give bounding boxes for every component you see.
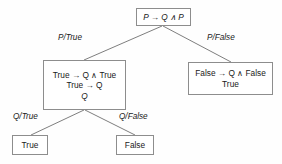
proof-tree-figure: P → Q ∧ P True → Q ∧ True True → Q Q Fal…	[0, 0, 282, 164]
edge-left-to-leaf-true-line	[31, 110, 84, 135]
node-left-line-3: Q	[81, 91, 87, 102]
node-leaf-false: False	[116, 135, 154, 155]
edge-root-to-left-line	[84, 26, 162, 60]
node-leaf-true: True	[12, 135, 48, 155]
edge-label-p-true: P/True	[58, 33, 82, 42]
node-root: P → Q ∧ P	[136, 8, 191, 26]
node-left-line-1: True → Q ∧ True	[53, 70, 116, 81]
node-right-line-2: True	[222, 79, 239, 90]
node-right: False → Q ∧ False True	[188, 62, 273, 95]
edge-label-p-false: P/False	[207, 33, 235, 42]
edge-root-to-right-line	[163, 26, 231, 62]
node-left: True → Q ∧ True True → Q Q	[43, 60, 126, 110]
node-right-line-1: False → Q ∧ False	[195, 68, 266, 79]
edge-label-q-false: Q/False	[119, 112, 148, 121]
node-leaf-false-label: False	[125, 140, 145, 151]
node-root-line-1: P → Q ∧ P	[143, 12, 184, 23]
node-left-line-2: True → Q	[66, 80, 102, 91]
edge-label-q-true: Q/True	[13, 112, 38, 121]
node-leaf-true-label: True	[22, 140, 39, 151]
